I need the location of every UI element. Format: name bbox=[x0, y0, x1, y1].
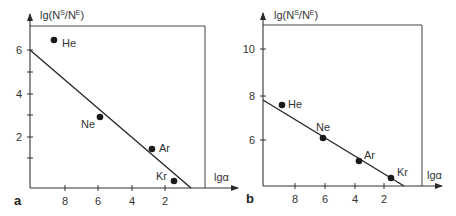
panel-a-point-label: He bbox=[62, 37, 76, 49]
panel-b-point-ar bbox=[356, 158, 363, 165]
panel-b-point-he bbox=[279, 102, 286, 109]
panel-a-point-label: Kr bbox=[156, 170, 167, 182]
panel-b-point-label: Kr bbox=[397, 166, 408, 178]
panel-b-x-tick-label: 2 bbox=[381, 193, 387, 205]
panel-a-letter: a bbox=[14, 193, 22, 208]
panel-b-point-kr bbox=[388, 175, 395, 182]
panel-a-y-tick-label: 6 bbox=[16, 44, 22, 56]
panel-b-point-label: Ne bbox=[316, 121, 330, 133]
panel-b-point-label: He bbox=[288, 98, 302, 110]
panel-a-y-tick-label: 4 bbox=[16, 88, 22, 100]
panel-b-y-tick-label: 6 bbox=[249, 134, 255, 146]
panel-a-y-axis-title: lg(NS/NE) bbox=[40, 9, 84, 21]
panel-b-y-tick-label: 10 bbox=[243, 43, 255, 55]
panel-b-x-axis-title: lgα bbox=[427, 169, 443, 181]
panel-b-x-tick-label: 8 bbox=[292, 193, 298, 205]
panel-b-x-tick-label: 4 bbox=[352, 193, 358, 205]
panel-a-x-tick-label: 8 bbox=[62, 195, 68, 207]
panel-b-letter: b bbox=[246, 191, 254, 206]
panel-b-fit-line bbox=[263, 100, 404, 186]
panel-a-x-tick-label: 6 bbox=[95, 195, 101, 207]
panel-b-y-axis-title: lg(NS/NE) bbox=[274, 9, 318, 21]
panel-a-point-he bbox=[51, 37, 58, 44]
panel-a-point-kr bbox=[171, 178, 178, 185]
panel-a-point-label: Ar bbox=[159, 142, 170, 154]
panel-a-x-axis-title: lgα bbox=[214, 171, 230, 183]
panel-a-fit-line bbox=[30, 50, 191, 188]
panel-b-x-tick-label: 6 bbox=[322, 193, 328, 205]
panel-a-x-tick-label: 4 bbox=[129, 195, 135, 207]
panel-a: 6 4 2 8 6 4 2 lg(NS/NE) lgα He Ne Ar Kr … bbox=[14, 9, 238, 208]
panel-a-point-label: Ne bbox=[81, 118, 95, 130]
panel-b-point-label: Ar bbox=[364, 149, 375, 161]
panel-b-y-tick-label: 8 bbox=[249, 90, 255, 102]
panel-b: 10 8 6 8 6 4 2 lg(NS/NE) lgα He Ne Ar Kr… bbox=[243, 9, 443, 206]
panel-b-point-ne bbox=[320, 135, 327, 142]
panel-a-point-ne bbox=[97, 114, 104, 121]
panel-a-x-tick-label: 2 bbox=[162, 195, 168, 207]
panel-a-y-tick-label: 2 bbox=[16, 131, 22, 143]
figure: 6 4 2 8 6 4 2 lg(NS/NE) lgα He Ne Ar Kr … bbox=[0, 0, 456, 216]
panel-a-point-ar bbox=[149, 146, 156, 153]
